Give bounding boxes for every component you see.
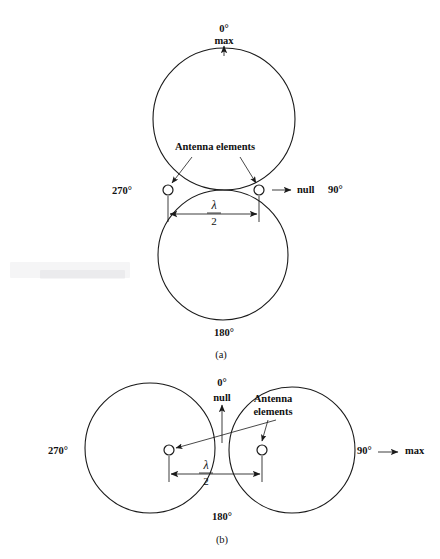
diagram-a-bottom-angle: 180° [214, 327, 234, 338]
diagram-a-leader-right [240, 157, 256, 183]
diagram-b-element-left [164, 445, 174, 455]
diagram-b-right-note: max [405, 445, 425, 456]
diagram-a-caption: (a) [215, 349, 227, 361]
diagram-a-upper-lobe [153, 48, 295, 190]
diagram-b-elements-label-line2: elements [253, 406, 292, 417]
diagram-a-right-angle: 90° [328, 184, 343, 195]
diagram-b-left-angle: 270° [48, 445, 68, 456]
diagram-b-group: 0° null 270° 90° max 180° Antenna elemen… [48, 377, 425, 546]
diagram-a-right-note: null [297, 184, 315, 195]
diagram-b-caption: (b) [216, 534, 229, 546]
diagram-a-element-right [254, 185, 264, 195]
diagram-a-top-angle: 0° [219, 23, 228, 34]
diagram-a-top-note: max [214, 35, 234, 46]
diagram-a-element-left [163, 185, 173, 195]
diagram-a-spacing-numerator: λ [210, 198, 216, 212]
diagram-b-element-right [257, 445, 267, 455]
diagram-a-lower-lobe [158, 190, 288, 320]
diagram-b-spacing-numerator: λ [202, 458, 208, 472]
diagram-a-elements-label: Antenna elements [175, 141, 255, 152]
diagram-b-top-note: null [213, 392, 231, 403]
diagram-b-elements-label-line1: Antenna [254, 393, 293, 404]
diagram-b-spacing-denominator: 2 [203, 475, 209, 487]
diagram-a-group: 0° max 270° null 90° 180° Antenna elemen… [112, 23, 343, 361]
diagram-a-spacing-denominator: 2 [211, 215, 217, 227]
figure-canvas: 0° max 270° null 90° 180° Antenna elemen… [0, 0, 440, 559]
antenna-pattern-figure: 0° max 270° null 90° 180° Antenna elemen… [0, 0, 440, 559]
diagram-b-bottom-angle: 180° [212, 511, 232, 522]
diagram-b-left-lobe [85, 383, 215, 513]
diagram-b-right-angle: 90° [357, 445, 372, 456]
diagram-a-left-angle: 270° [112, 185, 132, 196]
diagram-b-top-angle: 0° [217, 377, 226, 388]
diagram-b-leader-left [176, 420, 276, 448]
